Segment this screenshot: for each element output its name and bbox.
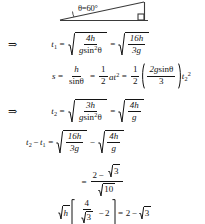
radical-sign-icon (98, 183, 103, 197)
term-at-squared: at2 (109, 71, 119, 82)
equals-sign: = (82, 177, 87, 187)
equals-sign-3: = (122, 71, 127, 81)
radical-16h-over-3g: 16h 3g (56, 130, 87, 154)
numerator: 4h (128, 101, 141, 112)
s-expression: s = h sinθ = 1 2 at2 = 1 2 (52, 63, 191, 89)
result-expression: = 2− 3 10 (79, 164, 124, 199)
fraction-16h-3g: 16h 3g (128, 34, 146, 55)
denominator: 2 (99, 77, 108, 87)
minus-sign-2: − (90, 137, 95, 147)
constant-2: 2 (105, 208, 110, 218)
fraction-h-over-sintheta: h sinθ (67, 65, 86, 86)
radical-sign-icon (98, 130, 105, 154)
radicand: 16h 3g (63, 130, 87, 154)
denominator: 2 (131, 77, 140, 87)
right-bracket-icon (112, 199, 116, 224)
fraction-one-half-a: 1 2 (99, 65, 108, 86)
radical-sign-icon (81, 211, 86, 224)
t1-expression: t1 = 4h gsin2θ = (51, 32, 149, 56)
fraction-one-half-b: 1 2 (131, 65, 140, 86)
equation-line-final: h 4 3 (57, 199, 152, 224)
denominator: 3g (130, 45, 143, 55)
variable-t1: t1 (40, 137, 46, 148)
equals-sign-2: = (90, 71, 95, 81)
numerator: 3h (84, 101, 97, 112)
fraction-4-over-sqrt3: 4 3 (78, 199, 96, 224)
fraction-3h-gsin2theta: 3h gsin2θ (77, 101, 104, 123)
implies-symbol: ⇒ (8, 106, 17, 117)
radicand: 3 (113, 164, 121, 178)
t2-expression: t2 = 3h gsin2θ = (51, 99, 145, 123)
radical-4h-over-g: 4h g (118, 99, 144, 123)
radical-h: h (58, 205, 71, 220)
variable-t2: t2 (26, 137, 32, 148)
radical-sign-icon (58, 205, 63, 220)
numerator: 1 (131, 65, 140, 76)
rhs-minus-sign: − (132, 208, 137, 218)
radicand: 4h g (105, 130, 124, 154)
equals-sign: = (58, 71, 63, 81)
radical-3: 3 (139, 206, 152, 220)
denominator: gsin2θ (77, 112, 104, 123)
radical-sign-icon (118, 99, 125, 123)
variable-t1: t1 (51, 39, 57, 50)
denominator: sinθ (67, 77, 86, 87)
equation-line-result: = 2− 3 10 (79, 164, 124, 199)
derivation-page: θ=60° ⇒ t1 = 4h gsin2θ = (0, 0, 205, 224)
equals-sign: = (118, 208, 123, 218)
radicand: 16h 3g (125, 32, 149, 56)
radical-16h-over-3g: 16h 3g (118, 32, 149, 56)
radical-4h-over-gsin2theta: 4h gsin2θ (68, 32, 108, 56)
radical-sign-icon (139, 206, 144, 220)
minus-sign: − (33, 137, 38, 147)
radicand: 3 (86, 211, 94, 224)
radicand: 3h gsin2θ (75, 99, 108, 123)
denominator: 3 (78, 210, 96, 224)
radical-sign-icon (68, 99, 75, 123)
radicand: 10 (103, 183, 115, 197)
radical-4h-over-g: 4h g (98, 130, 124, 154)
denominator: 3 (157, 77, 166, 87)
radical-3: 3 (108, 164, 121, 178)
fraction-2-minus-sqrt3-over-sqrt10: 2− 3 10 (91, 164, 123, 199)
equation-line-difference: t2 − t1 = 16h 3g − (26, 130, 124, 154)
inclined-plane-triangle-diagram: θ=60° (58, 0, 168, 24)
numerator: 16h (66, 132, 84, 143)
equals-sign: = (48, 137, 53, 147)
numerator: 2gsinθ (147, 65, 175, 76)
paren-content: 2gsinθ 3 (145, 63, 178, 89)
radicand: 4h gsin2θ (75, 32, 108, 56)
term-t2-squared: t22 (182, 70, 191, 82)
denominator: gsin2θ (77, 45, 104, 56)
denominator: 10 (96, 182, 118, 199)
fraction-2gsintheta-over-3: 2gsinθ 3 (147, 65, 175, 86)
numerator: h (72, 65, 81, 76)
denominator: 3g (68, 143, 81, 153)
parenthesized-acceleration: 2gsinθ 3 (141, 63, 182, 89)
radical-sign-icon (108, 164, 113, 178)
equation-line-t2: ⇒ t2 = 3h gsin2θ = (8, 99, 145, 123)
triangle-svg (58, 0, 168, 24)
fraction-4h-g: 4h g (107, 132, 120, 153)
radical-3: 3 (81, 211, 94, 224)
equals-sign: = (60, 106, 65, 116)
denominator: g (110, 143, 119, 153)
difference-expression: t2 − t1 = 16h 3g − (26, 130, 124, 154)
bracket-group: 4 3 − 2 (71, 199, 116, 224)
numerator: 16h (128, 34, 146, 45)
fraction-4h-g: 4h g (128, 101, 141, 122)
variable-s: s (52, 71, 56, 81)
variable-t2: t2 (51, 106, 57, 117)
equation-line-s: s = h sinθ = 1 2 at2 = 1 2 (52, 63, 191, 89)
radical-10: 10 (98, 183, 115, 197)
radicand: 3 (144, 206, 152, 220)
radical-3h-over-gsin2theta: 3h gsin2θ (68, 99, 108, 123)
angle-label: θ=60° (78, 3, 98, 13)
bracket-content: 4 3 − 2 (75, 199, 112, 224)
radical-sign-icon (68, 32, 75, 56)
implies-symbol: ⇒ (8, 39, 17, 50)
numerator: 4h (107, 132, 120, 143)
radical-sign-icon (118, 32, 125, 56)
rhs-constant-2: 2 (126, 208, 131, 218)
fraction-4h-gsin2theta: 4h gsin2θ (77, 34, 104, 56)
